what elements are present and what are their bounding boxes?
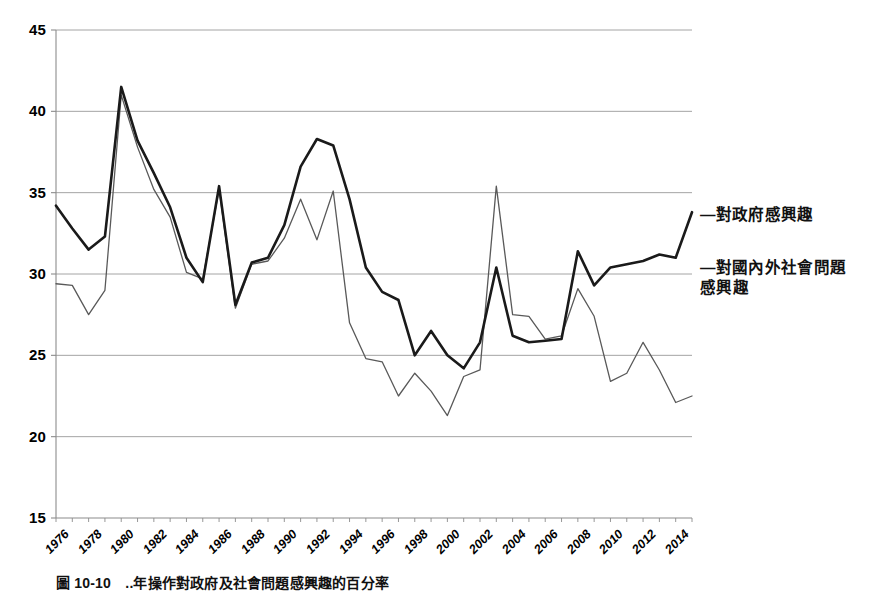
chart-legend: —對政府感興趣 —對國內外社會問題 感興趣	[700, 205, 876, 297]
y-axis-tick-label: 25	[12, 346, 46, 363]
y-axis-tick-label: 20	[12, 428, 46, 445]
y-axis-tick-label: 40	[12, 102, 46, 119]
legend-item-social-issues: —對國內外社會問題	[700, 258, 876, 277]
series-line-1	[56, 95, 692, 415]
legend-item-government: —對政府感興趣	[700, 205, 876, 224]
y-axis-tick-label: 15	[12, 509, 46, 526]
y-axis-tick-label: 45	[12, 21, 46, 38]
gridlines-group	[56, 30, 692, 518]
y-axis-tick-label: 30	[12, 265, 46, 282]
data-series-group	[56, 87, 692, 416]
figure-container: 45403530252015 1976197819801982198419861…	[0, 0, 876, 591]
legend-item-social-issues-cont: 感興趣	[700, 278, 876, 297]
y-axis-tick-label: 35	[12, 184, 46, 201]
figure-caption: 圖 10-10 ..年操作對政府及社會問題感興趣的百分率	[56, 572, 389, 591]
